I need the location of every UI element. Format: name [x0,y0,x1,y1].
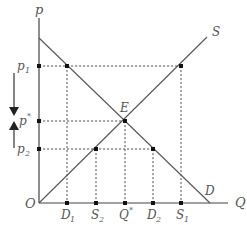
d1-label: D 1 [60,208,75,224]
p2-supply-point [94,147,98,151]
supply-label: S [212,25,220,39]
svg-text:*: * [129,206,133,215]
d2-label: D 2 [146,208,161,224]
svg-text:1: 1 [70,215,75,224]
svg-text:1: 1 [184,215,189,224]
svg-text:2: 2 [155,215,161,224]
p1-demand-point [65,64,69,68]
equilibrium-label: E [119,101,129,115]
s2-label: S 2 [91,208,104,224]
p2-demand-point [151,147,155,151]
x-axis-label: Q [235,195,246,210]
p2-dot [37,147,41,151]
origin-label: O [25,196,36,211]
svg-text:S: S [176,208,184,222]
s1-label: S 1 [176,208,189,224]
svg-text:1: 1 [25,66,30,75]
supply-demand-diagram: p Q O D S E p 1 p * p 2 D [0,0,247,225]
svg-text:p: p [17,59,25,73]
pstar-label: p * [19,112,31,128]
equilibrium-point [123,119,127,123]
svg-text:2: 2 [98,215,104,224]
s1-dot [179,201,183,205]
d1-dot [65,201,69,205]
svg-text:Q: Q [119,208,129,222]
s2-dot [94,201,98,205]
p1-dot [37,64,41,68]
p1-label: p 1 [17,59,30,75]
p2-label: p 2 [17,142,30,158]
svg-text:2: 2 [24,149,30,158]
svg-text:p: p [17,142,25,156]
p1-supply-point [179,64,183,68]
svg-text:*: * [27,112,31,121]
svg-text:p: p [19,114,27,128]
qstar-label: Q * [119,206,133,222]
qstar-dot [123,201,127,205]
svg-text:S: S [91,208,99,222]
y-axis-label: p [35,2,44,17]
down-arrow-icon [9,73,19,116]
d2-dot [151,201,155,205]
demand-label: D [204,184,215,198]
pstar-dot [37,119,41,123]
